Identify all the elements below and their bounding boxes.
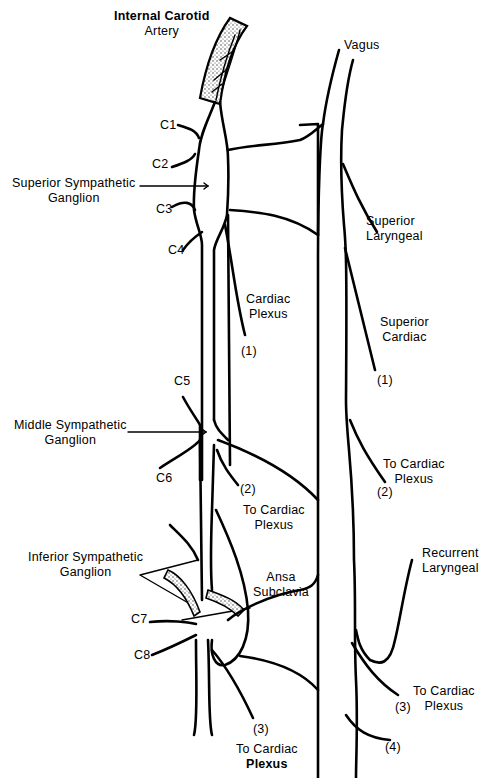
symp-branch-2-label: (2) bbox=[240, 482, 256, 497]
superior-cardiac-label: Superior Cardiac bbox=[380, 315, 429, 345]
c2-root bbox=[172, 154, 195, 167]
recurrent-laryngeal-label: Recurrent Laryngeal bbox=[422, 546, 479, 576]
to-cardiac-plexus-mid-label: To Cardiac Plexus bbox=[243, 503, 305, 533]
c1-root bbox=[178, 125, 199, 138]
c1-label: C1 bbox=[160, 118, 176, 133]
middle-ganglion-label: Middle Sympathetic Ganglion bbox=[14, 418, 127, 448]
c4-label: C4 bbox=[168, 243, 184, 258]
symp-to-cardiac-3-label: To Cardiac Plexus bbox=[236, 742, 298, 772]
vagal-to-cardiac-3-label: To Cardiac Plexus bbox=[413, 684, 475, 714]
vagal-branch-3-label: (3) bbox=[395, 700, 411, 715]
cardiac-plexus-label: Cardiac Plexus bbox=[246, 292, 290, 322]
vagal-branch-1-label: (1) bbox=[377, 373, 393, 388]
vagal-to-cardiac-2-label: To Cardiac Plexus bbox=[383, 457, 445, 487]
sympathetic-trunk bbox=[140, 102, 250, 735]
vagal-branch-2-label: (2) bbox=[377, 485, 393, 500]
ansa-subclavia-label: Ansa Subclavia bbox=[253, 570, 309, 600]
inferior-ganglion-label: Inferior Sympathetic Ganglion bbox=[28, 550, 143, 580]
vagus-nerve bbox=[318, 50, 412, 778]
superior-laryngeal-label: Superior Laryngeal bbox=[366, 214, 423, 244]
c7-label: C7 bbox=[131, 612, 147, 627]
vagal-branch-4-label: (4) bbox=[385, 740, 401, 755]
c8-root bbox=[152, 635, 196, 655]
c8-label: C8 bbox=[134, 648, 150, 663]
subclavian-artery bbox=[164, 570, 244, 616]
c4-root bbox=[183, 232, 202, 250]
symp-branch-1-label: (1) bbox=[241, 344, 257, 359]
anatomy-diagram bbox=[0, 0, 486, 778]
c3-label: C3 bbox=[156, 202, 172, 217]
c3-root bbox=[172, 203, 195, 210]
internal-carotid-label: Internal Carotid Artery bbox=[114, 9, 210, 39]
c7-root bbox=[150, 621, 196, 624]
superior-ganglion-label: Superior Sympathetic Ganglion bbox=[12, 176, 136, 206]
c2-label: C2 bbox=[152, 157, 168, 172]
c5-label: C5 bbox=[174, 374, 190, 389]
symp-branch-3-label: (3) bbox=[253, 722, 269, 737]
c6-label: C6 bbox=[156, 471, 172, 486]
vagus-label: Vagus bbox=[344, 38, 380, 53]
